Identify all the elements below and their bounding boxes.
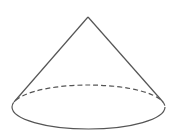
cone-left-slant-edge	[14, 17, 88, 102]
cone-base-hidden-back-arc	[12, 85, 165, 107]
cone-figure	[0, 0, 170, 140]
cone-right-slant-edge	[88, 17, 163, 102]
cone-diagram	[0, 0, 170, 140]
cone-base-visible-front-arc	[12, 107, 165, 129]
